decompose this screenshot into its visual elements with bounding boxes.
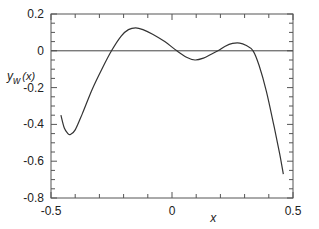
y-tick-label: -0.2 — [23, 81, 44, 95]
chart: -0.500.50.20-0.2-0.4-0.6-0.8 x yw(x) — [0, 0, 319, 229]
y-axis-label-subscript: w — [13, 75, 21, 86]
y-tick-label: -0.8 — [23, 191, 44, 205]
y-tick-label: -0.6 — [23, 154, 44, 168]
y-tick-label: 0.2 — [27, 7, 44, 21]
tick-labels: -0.500.50.20-0.2-0.4-0.6-0.8 — [23, 7, 301, 218]
x-tick-label: 0.5 — [285, 204, 302, 218]
x-tick-label: 0 — [169, 204, 176, 218]
series-line-yw — [61, 28, 283, 174]
y-tick-label: 0 — [37, 44, 44, 58]
x-axis-label: x — [209, 211, 217, 225]
y-tick-label: -0.4 — [23, 117, 44, 131]
x-tick-label: -0.5 — [41, 204, 62, 218]
y-axis-label-arg: (x) — [22, 70, 35, 82]
axes-frame — [51, 14, 293, 198]
axis-ticks — [51, 14, 293, 198]
